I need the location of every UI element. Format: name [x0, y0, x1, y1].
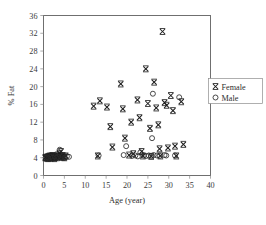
- y-tick-label: 20: [29, 83, 37, 92]
- data-point: [122, 135, 128, 141]
- data-point: [160, 29, 166, 35]
- x-tick-label: 0: [41, 181, 45, 190]
- data-point: [110, 144, 116, 150]
- data-point: [121, 153, 126, 158]
- series-female: [42, 29, 186, 162]
- legend-label: Male: [222, 94, 239, 103]
- legend-label: Female: [222, 83, 246, 92]
- data-point: [172, 143, 178, 149]
- data-point: [135, 97, 141, 103]
- x-tick-label: 15: [102, 181, 110, 190]
- data-point: [151, 79, 157, 85]
- data-point: [126, 152, 132, 158]
- y-tick-label: 32: [29, 29, 37, 38]
- x-tick-label: 20: [123, 181, 131, 190]
- data-point: [156, 122, 162, 128]
- data-point: [97, 98, 103, 104]
- y-tick-label: 36: [29, 12, 37, 21]
- plot-frame: [44, 16, 211, 176]
- y-tick-label: 0: [33, 172, 37, 181]
- data-point: [143, 66, 149, 72]
- data-point: [170, 108, 176, 114]
- scatter-plot-figure: 048121620242832360510152025303540Age (ye…: [0, 0, 266, 225]
- data-point: [168, 93, 174, 99]
- data-point: [165, 145, 171, 151]
- y-tick-label: 8: [33, 136, 37, 145]
- data-point: [157, 146, 163, 152]
- data-point: [150, 91, 155, 96]
- data-point: [181, 141, 187, 147]
- data-point: [104, 104, 110, 110]
- x-tick-label: 40: [206, 181, 214, 190]
- x-tick-label: 25: [144, 181, 152, 190]
- data-point: [145, 101, 151, 107]
- data-point: [153, 105, 159, 111]
- data-point: [150, 136, 155, 141]
- data-point: [91, 103, 97, 109]
- y-tick-label: 28: [29, 47, 37, 56]
- data-point: [120, 106, 126, 112]
- data-point: [128, 119, 134, 125]
- y-tick-label: 4: [33, 154, 37, 163]
- y-axis-title: % Fat: [7, 85, 16, 105]
- chart-canvas: 048121620242832360510152025303540Age (ye…: [0, 0, 266, 225]
- y-tick-label: 24: [29, 65, 37, 74]
- y-tick-label: 12: [29, 118, 37, 127]
- data-point: [147, 125, 153, 131]
- data-point: [118, 81, 124, 87]
- x-tick-label: 35: [186, 181, 194, 190]
- x-tick-label: 5: [62, 181, 66, 190]
- y-tick-label: 16: [29, 100, 37, 109]
- data-point: [137, 115, 143, 121]
- data-point: [124, 144, 129, 149]
- x-tick-label: 10: [81, 181, 89, 190]
- x-axis-title: Age (year): [109, 196, 145, 205]
- x-tick-label: 30: [165, 181, 173, 190]
- data-point: [108, 124, 114, 130]
